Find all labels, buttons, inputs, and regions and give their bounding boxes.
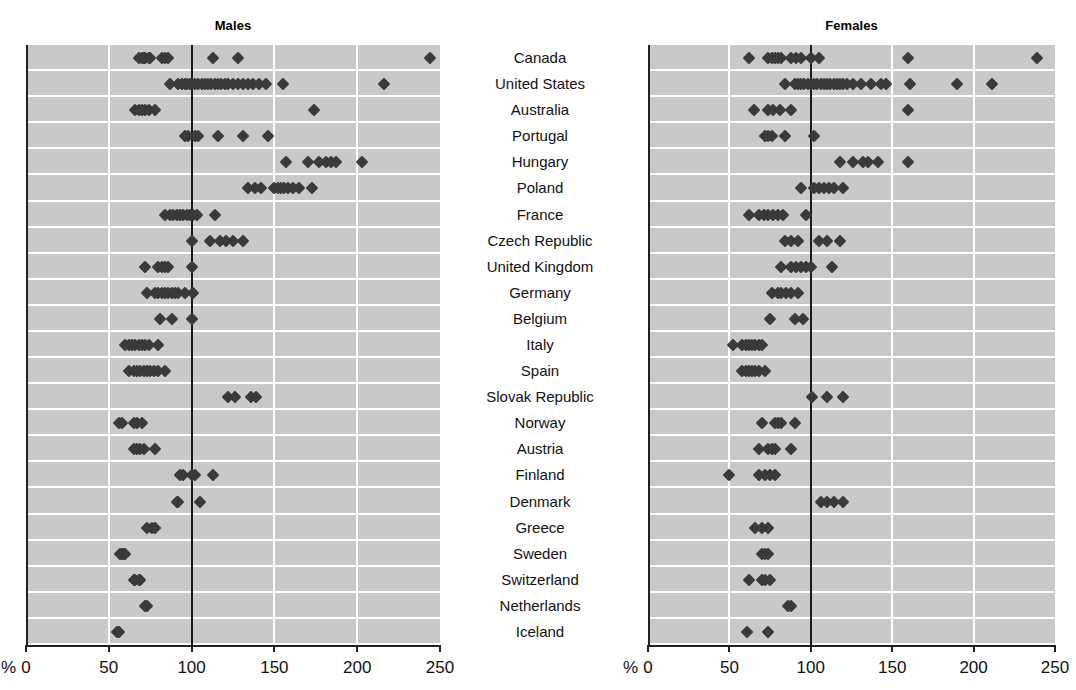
row-band <box>648 228 1055 254</box>
x-axis-tick <box>108 645 110 652</box>
x-axis-tick-label: 0 <box>21 658 30 678</box>
x-axis-tick <box>891 645 893 652</box>
axis-unit-label: % <box>623 658 638 678</box>
row-band <box>26 358 440 384</box>
category-label: Australia <box>440 102 640 117</box>
category-label: Sweden <box>440 546 640 561</box>
row-band <box>26 280 440 306</box>
row-band <box>648 567 1055 593</box>
row-band <box>26 123 440 149</box>
x-axis-line <box>648 645 1055 647</box>
row-band <box>26 175 440 201</box>
x-axis-tick-label: 100 <box>177 658 205 678</box>
category-label: Switzerland <box>440 572 640 587</box>
row-band <box>648 410 1055 436</box>
x-axis-tick-label: 200 <box>959 658 987 678</box>
x-axis-tick <box>1054 645 1056 652</box>
x-axis-tick-label: 250 <box>426 658 454 678</box>
x-axis-tick-label: 0 <box>643 658 652 678</box>
category-label: Germany <box>440 285 640 300</box>
row-band <box>648 306 1055 332</box>
category-label: United States <box>440 76 640 91</box>
category-label: United Kingdom <box>440 259 640 274</box>
x-axis-tick-label: 250 <box>1041 658 1069 678</box>
row-band <box>648 254 1055 280</box>
row-band <box>26 619 440 645</box>
category-label: Hungary <box>440 154 640 169</box>
category-label: France <box>440 207 640 222</box>
row-band <box>648 332 1055 358</box>
plot-area-males <box>26 45 440 645</box>
x-axis-tick <box>25 645 27 652</box>
row-band <box>26 332 440 358</box>
row-band <box>26 97 440 123</box>
row-band <box>648 515 1055 541</box>
category-label: Slovak Republic <box>440 389 640 404</box>
row-band <box>26 462 440 488</box>
row-band <box>26 149 440 175</box>
row-band <box>26 593 440 619</box>
row-band <box>26 436 440 462</box>
row-band <box>26 410 440 436</box>
category-label: Norway <box>440 415 640 430</box>
x-axis-tick-label: 50 <box>99 658 118 678</box>
x-axis-tick <box>356 645 358 652</box>
plot-area-females <box>648 45 1055 645</box>
x-axis-tick <box>973 645 975 652</box>
row-band <box>26 567 440 593</box>
x-axis-tick-label: 150 <box>260 658 288 678</box>
gridline <box>891 45 893 645</box>
category-label: Spain <box>440 363 640 378</box>
panel-title-females: Females <box>648 18 1055 33</box>
x-axis-tick <box>647 645 649 652</box>
y-axis-spine <box>26 45 28 645</box>
category-label: Finland <box>440 467 640 482</box>
row-band <box>648 97 1055 123</box>
row-band <box>648 593 1055 619</box>
x-axis-tick <box>810 645 812 652</box>
category-label: Greece <box>440 520 640 535</box>
category-label: Belgium <box>440 311 640 326</box>
gridline <box>973 45 975 645</box>
row-band <box>26 306 440 332</box>
y-axis-spine <box>648 45 650 645</box>
x-axis-tick <box>439 645 441 652</box>
category-label: Canada <box>440 50 640 65</box>
row-band <box>648 436 1055 462</box>
row-band <box>26 488 440 514</box>
x-axis-line <box>26 645 440 647</box>
category-label: Netherlands <box>440 598 640 613</box>
row-band <box>648 280 1055 306</box>
row-band <box>648 384 1055 410</box>
row-band <box>648 123 1055 149</box>
category-label: Czech Republic <box>440 233 640 248</box>
category-label: Italy <box>440 337 640 352</box>
category-label: Iceland <box>440 624 640 639</box>
x-axis-tick <box>273 645 275 652</box>
row-band <box>26 254 440 280</box>
category-label: Denmark <box>440 494 640 509</box>
gridline <box>356 45 358 645</box>
axis-unit-label: % <box>1 658 16 678</box>
row-band <box>648 462 1055 488</box>
row-band <box>26 515 440 541</box>
category-label: Portugal <box>440 128 640 143</box>
row-band <box>648 358 1055 384</box>
row-band <box>648 175 1055 201</box>
category-label: Austria <box>440 441 640 456</box>
category-label: Poland <box>440 180 640 195</box>
panel-title-males: Males <box>26 18 440 33</box>
x-axis-tick-label: 200 <box>343 658 371 678</box>
x-axis-tick-label: 150 <box>878 658 906 678</box>
x-axis-tick <box>728 645 730 652</box>
chart-root: Males Females CanadaUnited StatesAustral… <box>0 0 1076 690</box>
x-axis-tick-label: 50 <box>720 658 739 678</box>
row-band <box>648 202 1055 228</box>
row-band <box>26 202 440 228</box>
row-band <box>648 619 1055 645</box>
row-band <box>648 541 1055 567</box>
x-axis-tick-label: 100 <box>797 658 825 678</box>
x-axis-tick <box>191 645 193 652</box>
row-band <box>648 45 1055 71</box>
row-band <box>26 541 440 567</box>
